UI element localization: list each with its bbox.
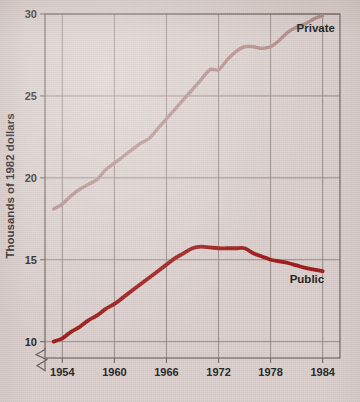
line-chart: 1015202530195419601966197219781984Thousa… xyxy=(0,0,360,402)
x-tick-label: 1966 xyxy=(154,366,178,378)
chart-figure: 1015202530195419601966197219781984Thousa… xyxy=(0,0,360,402)
y-tick-label: 10 xyxy=(25,336,37,348)
series-annotation-public: Public xyxy=(290,273,325,285)
series-annotation-private: Private xyxy=(297,22,335,34)
x-tick-label: 1984 xyxy=(310,366,335,378)
y-tick-label: 25 xyxy=(25,90,37,102)
y-axis-title: Thousands of 1982 dollars xyxy=(4,113,16,258)
plot-frame xyxy=(45,14,340,358)
series-line-private xyxy=(54,16,323,209)
y-tick-label: 30 xyxy=(25,8,37,20)
x-tick-label: 1954 xyxy=(50,366,75,378)
y-tick-label: 20 xyxy=(25,172,37,184)
series-line-public xyxy=(54,247,323,342)
y-tick-label: 15 xyxy=(25,254,37,266)
x-tick-label: 1960 xyxy=(102,366,126,378)
x-tick-label: 1978 xyxy=(258,366,282,378)
x-tick-label: 1972 xyxy=(206,366,230,378)
